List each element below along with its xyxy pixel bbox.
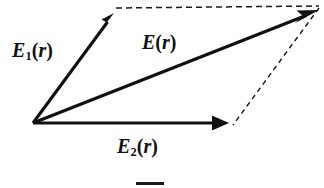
label-e1: E1(r) [12,40,53,63]
caption-fragment [136,182,164,185]
vector-e2 [33,116,229,131]
vector-diagram-canvas [0,0,324,188]
vector-e-arrowhead [295,10,320,24]
construction-line-top [116,6,319,8]
label-e-close-paren: ) [170,31,177,53]
vector-e1-arrowhead [100,13,114,32]
label-e-argument: r [162,31,170,53]
vector-diagram-figure: E1(r) E(r) E2(r) [0,0,324,188]
label-e2-close-paren: ) [151,135,158,157]
label-e2-symbol: E [117,135,130,157]
label-e-symbol: E [142,31,155,53]
label-e-open-paren: ( [155,31,162,53]
label-e1-close-paren: ) [46,39,53,61]
label-e: E(r) [142,32,176,52]
label-e1-symbol: E [12,39,25,61]
construction-line-right [233,8,319,125]
label-e2: E2(r) [117,136,158,159]
vector-e2-arrowhead [212,116,229,131]
